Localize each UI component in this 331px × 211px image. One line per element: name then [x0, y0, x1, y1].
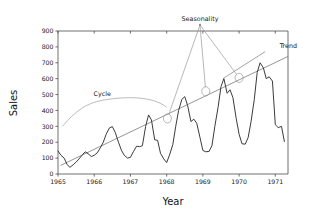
y-tick-label: 900	[42, 27, 54, 34]
x-tick-label: 1965	[50, 178, 66, 185]
trend-annotation-label: Trend	[279, 42, 298, 50]
chart-figure: 0100200300400500600700800900 19651966196…	[0, 0, 331, 211]
y-tick-label: 500	[42, 91, 54, 98]
cycle-annotation-label: Cycle	[93, 90, 111, 98]
x-tick-label: 1968	[159, 178, 175, 185]
y-tick-label: 700	[42, 59, 54, 66]
seasonality-annotation-label: Seasonality	[182, 15, 219, 23]
x-tick-label: 1966	[86, 178, 102, 185]
y-tick-label: 0	[50, 170, 54, 177]
y-axis-title: Sales	[8, 90, 19, 117]
y-tick-label: 300	[42, 123, 54, 130]
sales-time-series-chart: 0100200300400500600700800900 19651966196…	[0, 0, 331, 211]
x-tick-label: 1971	[267, 178, 283, 185]
x-tick-label: 1969	[195, 178, 211, 185]
x-axis-title: Year	[161, 196, 184, 207]
x-tick-label: 1967	[123, 178, 139, 185]
y-tick-label: 400	[42, 107, 54, 114]
y-tick-label: 200	[42, 138, 54, 145]
y-tick-label: 800	[42, 43, 54, 50]
y-tick-label: 600	[42, 75, 54, 82]
x-tick-label: 1970	[231, 178, 247, 185]
y-tick-label: 100	[42, 154, 54, 161]
